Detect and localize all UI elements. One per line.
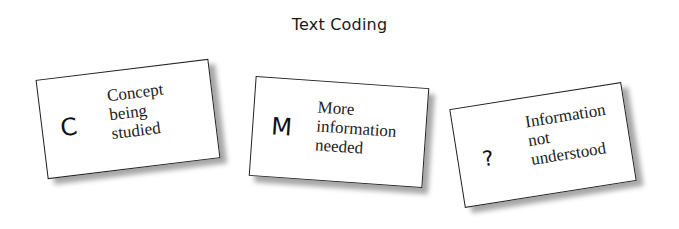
diagram-title: Text Coding [0, 15, 679, 34]
card-concept: C Concept being studied [36, 59, 221, 179]
card-description: More information needed [314, 97, 398, 159]
card-description: Information not understood [524, 100, 613, 169]
card-not-understood: ? Information not understood [449, 82, 637, 208]
code-letter: C [59, 112, 79, 142]
code-letter: ? [481, 146, 496, 171]
card-more-info: M More information needed [249, 76, 430, 188]
card-description: Concept being studied [106, 80, 169, 143]
code-letter: M [270, 112, 293, 141]
